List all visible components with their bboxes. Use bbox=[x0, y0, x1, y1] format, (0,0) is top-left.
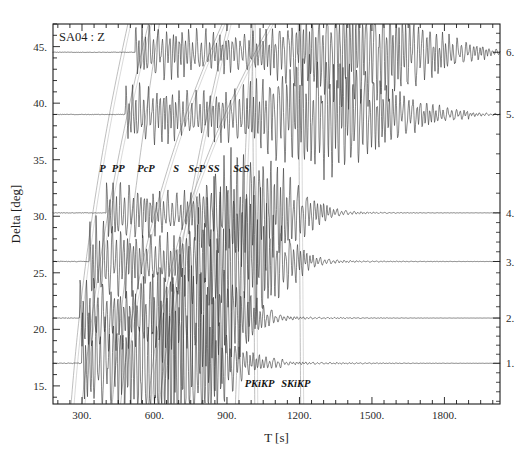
seismogram-trace-1 bbox=[53, 266, 500, 404]
right-tick-label-2: 2. bbox=[506, 312, 515, 324]
phase-label-ScP: ScP bbox=[188, 163, 206, 174]
plot-title: SA04 : Z bbox=[59, 30, 105, 44]
phase-label-PKiKP: PKiKP bbox=[245, 378, 275, 389]
phase-label-SKiKP: SKiKP bbox=[281, 378, 311, 389]
seismogram-trace-6 bbox=[53, 25, 500, 110]
y-tick-label-15: 15. bbox=[33, 380, 47, 392]
right-tick-label-3: 3. bbox=[506, 256, 515, 268]
phase-label-S: S bbox=[173, 163, 179, 174]
right-tick-label-6: 6. bbox=[506, 46, 515, 58]
y-tick-label-35: 35. bbox=[33, 154, 47, 166]
trace-group bbox=[53, 25, 500, 404]
y-axis-label: Delta [deg] bbox=[8, 185, 23, 244]
x-tick-label-900: 900. bbox=[217, 409, 237, 421]
y-tick-label-30: 30. bbox=[33, 210, 47, 222]
x-tick-label-1500: 1500. bbox=[360, 409, 385, 421]
x-tick-label-1200: 1200. bbox=[287, 409, 312, 421]
right-tick-label-4: 4. bbox=[506, 207, 515, 219]
phase-label-PcP: PcP bbox=[137, 163, 155, 174]
y-tick-label-20: 20. bbox=[33, 323, 47, 335]
x-tick-label-300: 300. bbox=[72, 409, 92, 421]
x-tick-label-1800: 1800. bbox=[432, 409, 457, 421]
y-tick-label-40: 40. bbox=[33, 97, 47, 109]
record-section-figure: 300.600.900.1200.1500.1800.15.20.25.30.3… bbox=[0, 0, 528, 460]
x-tick-label-600: 600. bbox=[145, 409, 165, 421]
seismic-record-section-plot: 300.600.900.1200.1500.1800.15.20.25.30.3… bbox=[0, 0, 528, 460]
phase-label-PP: PP bbox=[112, 163, 125, 174]
right-tick-label-5: 5. bbox=[506, 108, 515, 120]
phase-label-SS: SS bbox=[208, 163, 220, 174]
right-tick-label-1: 1. bbox=[506, 357, 515, 369]
phase-label-P: P bbox=[99, 163, 106, 174]
x-axis-label: T [s] bbox=[264, 430, 289, 445]
seismogram-trace-5 bbox=[53, 54, 500, 180]
y-tick-label-45: 45. bbox=[33, 41, 47, 53]
phase-label-ScS: ScS bbox=[233, 163, 250, 174]
y-tick-label-25: 25. bbox=[33, 267, 47, 279]
